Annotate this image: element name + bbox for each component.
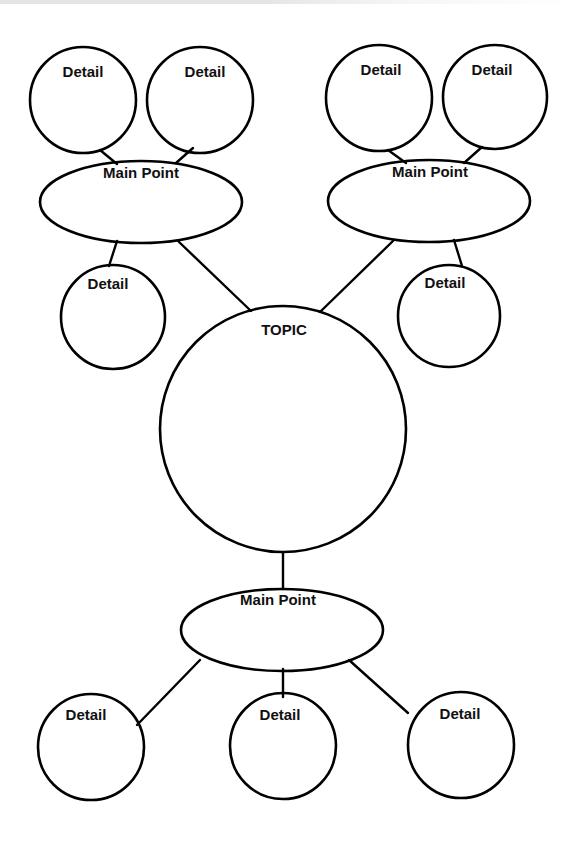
detail-top-left-1-label: Detail bbox=[63, 64, 104, 79]
conn-tr2-mpr-connector bbox=[464, 147, 482, 163]
conn-mpl-ml-connector bbox=[109, 241, 117, 266]
topic-circle bbox=[160, 306, 406, 552]
conn-mpl-topic-connector bbox=[178, 241, 251, 311]
detail-bottom-middle-label: Detail bbox=[260, 707, 301, 722]
detail-top-right-1-label: Detail bbox=[361, 62, 402, 77]
detail-bottom-left-label: Detail bbox=[66, 707, 107, 722]
detail-top-left-2-label: Detail bbox=[185, 64, 226, 79]
conn-mpb-br-connector bbox=[349, 660, 408, 713]
conn-mpr-mr-connector bbox=[454, 240, 462, 266]
detail-mid-left-label: Detail bbox=[88, 276, 129, 291]
main-point-left-label: Main Point bbox=[103, 165, 179, 180]
conn-mpb-bl-connector bbox=[137, 660, 200, 725]
connector-lines bbox=[100, 147, 482, 725]
main-point-bottom-label: Main Point bbox=[240, 592, 316, 607]
detail-bottom-right-label: Detail bbox=[440, 706, 481, 721]
main-point-right-label: Main Point bbox=[392, 164, 468, 179]
topic-label: TOPIC bbox=[261, 322, 307, 337]
detail-top-right-2-label: Detail bbox=[472, 62, 513, 77]
conn-mpr-topic-connector bbox=[320, 240, 394, 312]
detail-mid-right-label: Detail bbox=[425, 275, 466, 290]
concept-map-canvas: TOPIC Main Point Main Point Main Point D… bbox=[0, 0, 579, 843]
